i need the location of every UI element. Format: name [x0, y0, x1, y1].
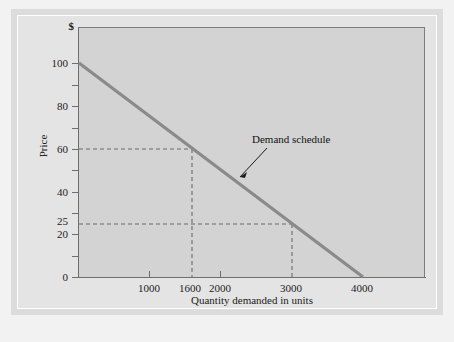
- guide-line-60-1600: [79, 149, 192, 277]
- demand-schedule-annotation-label: Demand schedule: [252, 133, 331, 145]
- demand-schedule-line: [79, 63, 363, 277]
- guide-line-25-3000: [79, 224, 292, 277]
- annotation-arrow-icon: [240, 148, 267, 178]
- chart-overlay: [0, 0, 454, 342]
- figure-screenshot: $ Price 0 20 25 40 60 80 100 1000 1600 2…: [0, 0, 454, 342]
